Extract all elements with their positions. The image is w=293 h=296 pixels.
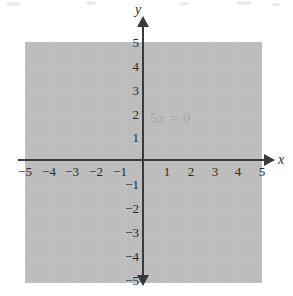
y-tick-label: −3 bbox=[125, 226, 139, 239]
y-tick-label: 3 bbox=[133, 84, 140, 97]
x-tick-label: 5 bbox=[259, 165, 266, 178]
y-tick-label: −4 bbox=[125, 250, 139, 263]
scan-artifact bbox=[86, 1, 96, 5]
equation-coefficient: 5 bbox=[150, 110, 158, 126]
x-tick-label: −2 bbox=[89, 165, 103, 178]
grid-line-vertical bbox=[25, 42, 26, 283]
y-tick-label: 4 bbox=[133, 60, 140, 73]
grid-line-vertical bbox=[191, 42, 192, 283]
grid-line-vertical bbox=[214, 42, 215, 283]
scan-artifact bbox=[180, 2, 189, 5]
x-tick-label: −3 bbox=[65, 165, 79, 178]
x-tick-label: −5 bbox=[18, 165, 32, 178]
y-tick-label: 5 bbox=[133, 36, 140, 49]
y-tick-label: 1 bbox=[133, 131, 140, 144]
y-axis-label: y bbox=[135, 2, 141, 18]
equation-variable: x bbox=[158, 110, 165, 126]
y-axis-line bbox=[142, 25, 144, 283]
x-axis-arrow-icon bbox=[264, 154, 275, 166]
equation-annotation: 5x = 0 bbox=[150, 110, 191, 127]
grid-line-vertical bbox=[167, 42, 168, 283]
coordinate-plane-figure: x y −5 −4 −3 −2 −1 1 2 3 4 5 5 4 3 2 1 −… bbox=[0, 0, 293, 296]
x-tick-label: −4 bbox=[42, 165, 56, 178]
y-tick-label: 2 bbox=[133, 108, 140, 121]
scan-artifact bbox=[272, 3, 280, 6]
grid-line-vertical bbox=[120, 42, 121, 283]
x-tick-label: 1 bbox=[164, 165, 171, 178]
x-tick-label: 4 bbox=[235, 165, 242, 178]
x-tick-label: 3 bbox=[212, 165, 219, 178]
grid-line-vertical bbox=[49, 42, 50, 283]
grid-line-vertical bbox=[72, 42, 73, 283]
equation-value: 0 bbox=[183, 110, 191, 126]
grid-line-vertical bbox=[238, 42, 239, 283]
y-tick-label: −5 bbox=[125, 274, 139, 287]
scan-artifact bbox=[6, 2, 20, 6]
y-tick-label: −1 bbox=[125, 178, 139, 191]
x-axis-label: x bbox=[278, 152, 284, 168]
y-tick-label: −2 bbox=[125, 202, 139, 215]
x-tick-label: 2 bbox=[188, 165, 195, 178]
grid-line-vertical bbox=[96, 42, 97, 283]
scan-artifact bbox=[236, 1, 252, 5]
grid-line-vertical bbox=[261, 42, 262, 283]
equation-relation: = bbox=[169, 110, 178, 126]
